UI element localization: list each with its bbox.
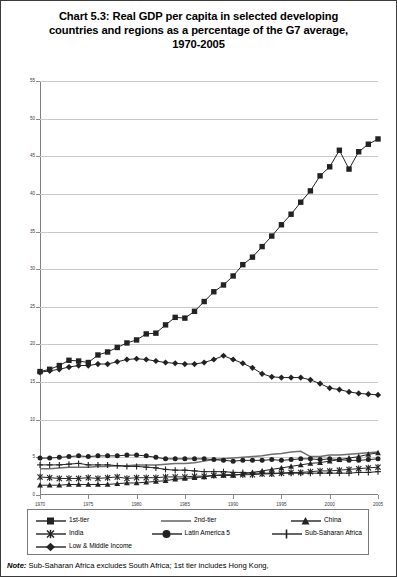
data-point-marker: [221, 458, 226, 463]
legend-item-1st-tier[interactable]: 1st-tier: [34, 515, 159, 527]
data-point-marker: [163, 456, 168, 461]
data-point-marker: [278, 374, 284, 380]
x-tick-label: 1995: [276, 503, 286, 508]
legend-symbol-asterisk: [34, 528, 68, 540]
x-tick: [40, 495, 41, 499]
data-point-marker: [221, 282, 226, 287]
data-point-marker: [376, 456, 381, 461]
x-tick: [378, 495, 379, 499]
data-point-marker: [365, 391, 371, 397]
data-point-marker: [288, 212, 293, 217]
data-point-marker: [95, 352, 100, 357]
data-point-marker: [115, 453, 120, 458]
data-point-marker: [201, 299, 206, 304]
x-tick-label: 2005: [373, 503, 383, 508]
legend-item-low-middle-income[interactable]: Low & Middle Income: [34, 541, 159, 553]
x-tick-label: 1990: [228, 503, 238, 508]
data-point-marker: [47, 456, 52, 461]
data-point-marker: [133, 356, 139, 362]
data-point-marker: [114, 463, 120, 469]
data-point-marker: [134, 453, 139, 458]
legend-symbol-diamond: [34, 541, 68, 553]
data-point-marker: [47, 462, 53, 468]
y-tick-label: 50: [30, 116, 35, 121]
data-point-marker: [366, 142, 371, 147]
legend-label: India: [69, 530, 83, 537]
data-point-marker: [211, 289, 216, 294]
data-point-marker: [162, 359, 168, 365]
legend-label: Latin America 5: [185, 530, 230, 537]
legend-row-2: India Latin America 5 Sub-Saharan Africa: [34, 527, 362, 540]
data-point-marker: [346, 389, 352, 395]
legend-symbol-triangle: [289, 515, 323, 527]
data-point-marker: [356, 390, 362, 396]
plot-region: 0510152025303540455055 19701975198019851…: [40, 81, 378, 495]
y-tick-label: 40: [30, 192, 35, 197]
series-1st-tier: [37, 136, 380, 374]
legend-item-2nd-tier[interactable]: 2nd-tier: [159, 515, 289, 527]
data-point-marker: [317, 380, 323, 386]
x-tick: [185, 495, 186, 499]
data-point-marker: [182, 361, 188, 367]
data-point-marker: [269, 457, 274, 462]
data-point-marker: [231, 459, 236, 464]
x-tick-label: 1970: [35, 503, 45, 508]
data-point-marker: [250, 254, 255, 259]
data-point-marker: [269, 233, 274, 238]
legend-label: 1st-tier: [69, 517, 89, 524]
data-point-marker: [192, 468, 198, 474]
data-point-marker: [153, 465, 159, 471]
data-point-marker: [163, 322, 168, 327]
legend-symbol-square: [34, 515, 68, 527]
page-title: Chart 5.3: Real GDP per capita in select…: [15, 9, 382, 52]
data-point-marker: [298, 456, 303, 461]
data-point-marker: [249, 365, 255, 371]
data-point-marker: [289, 457, 294, 462]
legend-item-china[interactable]: China: [289, 515, 341, 527]
note-label: Note:: [7, 561, 26, 570]
series-line: [40, 139, 378, 372]
legend-item-latin-america-5[interactable]: Latin America 5: [150, 528, 270, 540]
data-point-marker: [153, 455, 158, 460]
y-tick-label: 0: [32, 493, 35, 498]
y-tick-label: 35: [30, 229, 35, 234]
series-low-middle-income: [37, 353, 381, 398]
y-tick-label: 45: [30, 154, 35, 159]
legend-item-india[interactable]: India: [34, 528, 150, 540]
data-point-marker: [308, 188, 313, 193]
data-point-marker: [115, 345, 120, 350]
data-point-marker: [211, 356, 217, 362]
data-point-marker: [260, 458, 265, 463]
data-point-marker: [347, 458, 352, 463]
data-point-marker: [66, 358, 71, 363]
y-tick-label: 25: [30, 305, 35, 310]
legend-item-sub-saharan-africa[interactable]: Sub-Saharan Africa: [270, 528, 362, 540]
data-point-marker: [144, 331, 149, 336]
legend-label: Sub-Saharan Africa: [305, 530, 362, 537]
legend-label: Low & Middle Income: [69, 543, 132, 550]
data-point-marker: [57, 455, 62, 460]
data-point-marker: [240, 360, 246, 366]
data-point-marker: [95, 453, 100, 458]
x-tick: [233, 495, 234, 499]
data-point-marker: [38, 456, 43, 461]
data-point-marker: [375, 392, 381, 398]
data-point-marker: [172, 467, 178, 473]
legend-label: 2nd-tier: [194, 517, 216, 524]
data-point-marker: [279, 222, 284, 227]
data-point-marker: [105, 453, 110, 458]
data-point-marker: [182, 467, 188, 473]
data-point-marker: [144, 453, 149, 458]
y-tick-label: 15: [30, 380, 35, 385]
x-tick: [88, 495, 89, 499]
data-point-marker: [76, 453, 81, 458]
series-line: [40, 451, 378, 468]
data-point-marker: [250, 458, 255, 463]
data-point-marker: [182, 456, 187, 461]
data-point-marker: [202, 456, 207, 461]
data-point-marker: [220, 353, 226, 359]
x-tick: [137, 495, 138, 499]
data-point-marker: [240, 458, 245, 463]
data-point-marker: [105, 361, 111, 367]
note-text: Sub-Saharan Africa excludes South Africa…: [26, 561, 268, 570]
